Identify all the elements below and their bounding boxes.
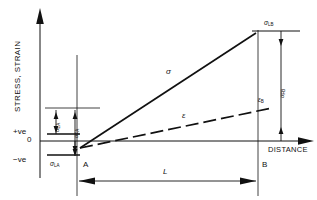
y-axis-label: STRESS, STRAIN <box>14 100 22 112</box>
sigma-la-left-base: σ <box>54 128 60 132</box>
sigma-la-below-label: σLA <box>50 161 59 169</box>
y-tick-positive: +ve <box>13 128 26 136</box>
stress-curve-sigma <box>80 33 256 148</box>
sigma-la-left-sub: LA <box>56 123 61 129</box>
sigma-curve-label: σ <box>166 68 171 76</box>
sigma-lb-label: σLB <box>264 20 273 28</box>
y-axis <box>36 8 44 178</box>
sigma-fa-left-base: σ <box>73 134 79 138</box>
length-dimension-l <box>79 177 256 184</box>
stress-strain-distance-diagram <box>0 0 317 200</box>
x-axis <box>40 137 314 145</box>
sigma-la-left-label: σLA <box>54 123 62 132</box>
sigma-fb-base: σ <box>279 94 285 98</box>
y-tick-zero: 0 <box>27 136 31 144</box>
sigma-fb-sub: FB <box>281 89 286 95</box>
sigma-fb-dimension-arrow <box>279 31 284 141</box>
diagram-canvas: STRESS, STRAIN +ve 0 −ve DISTANCE σLA σF… <box>0 0 317 200</box>
length-l-label: L <box>163 168 167 176</box>
epsilon-b-sub: B <box>261 99 264 104</box>
sigma-fa-left-sub: FA <box>75 129 80 135</box>
point-a-label: A <box>83 161 88 169</box>
epsilon-b-label: εB <box>258 97 264 105</box>
strain-curve-epsilon <box>80 108 272 148</box>
x-axis-label: DISTANCE <box>268 146 308 154</box>
y-tick-negative: −ve <box>13 156 26 164</box>
sigma-fb-label: σFB <box>279 89 287 98</box>
sigma-lb-sub: LB <box>268 22 274 27</box>
point-b-label: B <box>262 161 267 169</box>
sigma-la-below-sub: LA <box>54 163 60 168</box>
sigma-fa-left-label: σFA <box>73 129 81 138</box>
epsilon-curve-label: ε <box>182 112 186 120</box>
